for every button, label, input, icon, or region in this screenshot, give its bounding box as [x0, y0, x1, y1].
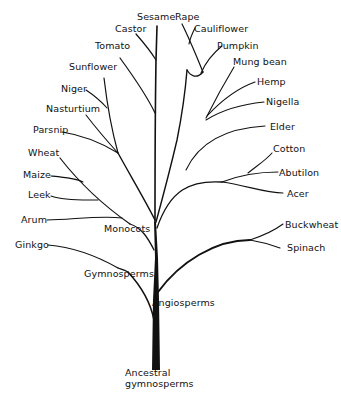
label-hemp: Hemp [257, 76, 286, 87]
label-monocots: Monocots [104, 223, 150, 234]
label-acer: Acer [287, 188, 309, 199]
branch-elder [186, 126, 265, 170]
label-cauliflower: Cauliflower [194, 23, 248, 34]
label-parsnip: Parsnip [33, 124, 68, 135]
label-spinach: Spinach [287, 242, 326, 253]
branch-left-clade-stem [118, 153, 155, 220]
branch-nigella [206, 102, 264, 120]
label-leek: Leek [28, 189, 51, 200]
label-tomato: Tomato [94, 40, 130, 51]
trunk [152, 222, 160, 370]
label-angiosperms: Angiosperms [152, 297, 215, 308]
label-abutilon: Abutilon [279, 167, 319, 178]
branch-buckwheat [250, 224, 283, 240]
label-arum: Arum [21, 214, 47, 225]
label-pumpkin: Pumpkin [217, 40, 259, 51]
label-elder: Elder [270, 121, 295, 132]
label-sesame: Sesame [137, 11, 175, 22]
branch-caryophyllales-stem [158, 240, 250, 292]
label-rape: Rape [175, 11, 200, 22]
trunk-lower-gymnosperm-join [128, 272, 154, 320]
label-ancestral-line1: Ancestral [125, 367, 171, 378]
branch-hemp [207, 82, 255, 116]
label-sunflower: Sunflower [69, 61, 117, 72]
branch-leek [51, 196, 98, 200]
branch-parsnip [62, 132, 118, 153]
label-mung-bean: Mung bean [233, 56, 287, 67]
branch-cotton [248, 153, 272, 173]
branch-abutilon [222, 172, 278, 182]
label-cotton: Cotton [273, 143, 305, 154]
label-nigella: Nigella [266, 96, 299, 107]
branch-spinach [250, 240, 280, 248]
label-niger: Niger [61, 83, 87, 94]
branch-monocot-main [60, 158, 130, 224]
branch-ginkgo [48, 245, 118, 268]
branch-acer [222, 182, 283, 193]
label-gymnosperms: Gymnosperms [84, 268, 154, 279]
branch-castor [136, 34, 156, 60]
branch-central-stem [155, 26, 157, 222]
branch-arum [47, 217, 122, 220]
phylogenetic-tree: Sesame Castor Tomato Sunflower Niger Nas… [0, 0, 341, 398]
branch-tomato [120, 58, 155, 113]
label-maize: Maize [23, 169, 51, 180]
label-wheat: Wheat [28, 147, 59, 158]
branch-malvales-stem [157, 182, 222, 228]
label-buckwheat: Buckwheat [285, 219, 339, 230]
label-ancestral-line2: gymnosperms [125, 378, 194, 389]
label-ginkgo: Ginkgo [15, 239, 49, 250]
branch-sunflower [104, 78, 118, 153]
label-castor: Castor [115, 23, 146, 34]
label-nasturtium: Nasturtium [46, 103, 100, 114]
branch-mung-bean [206, 67, 234, 118]
